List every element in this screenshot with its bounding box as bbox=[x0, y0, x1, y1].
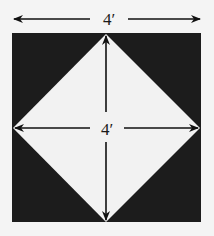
top-dimension-label: 4′ bbox=[103, 10, 115, 29]
top-dimension: 4′ bbox=[14, 10, 200, 29]
diagram-canvas: 4′ 4′ bbox=[0, 0, 214, 236]
inner-dimension-label: 4′ bbox=[101, 120, 113, 139]
